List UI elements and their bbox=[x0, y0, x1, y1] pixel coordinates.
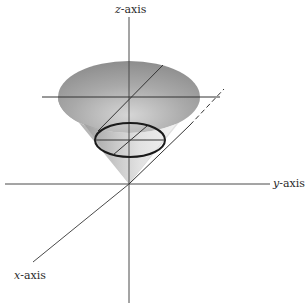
z-axis-suffix: -axis bbox=[121, 3, 147, 16]
diagram-canvas bbox=[0, 0, 306, 305]
x-axis-line bbox=[33, 184, 129, 262]
x-axis-suffix: -axis bbox=[20, 269, 46, 282]
y-axis-suffix: -axis bbox=[279, 177, 305, 190]
cone-diagram: z-axis y-axis x-axis bbox=[0, 0, 306, 305]
y-axis-label: y-axis bbox=[273, 178, 305, 190]
z-axis-label: z-axis bbox=[115, 4, 146, 16]
x-axis-label: x-axis bbox=[14, 270, 46, 282]
